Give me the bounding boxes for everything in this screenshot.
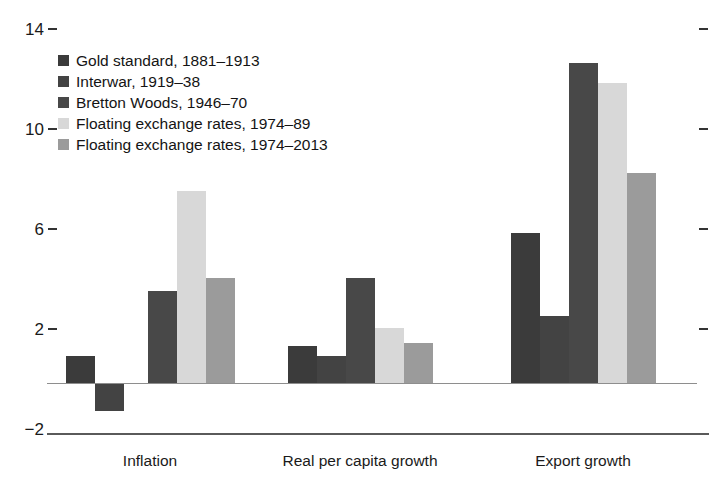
- bar-export-growth-floating-1974-89: [598, 83, 627, 383]
- legend-item-floating-1974-89: Floating exchange rates, 1974–89: [58, 113, 328, 134]
- bar-inflation-floating-1974-89: [177, 191, 206, 384]
- legend-label-floating-1974-2013: Floating exchange rates, 1974–2013: [76, 137, 328, 153]
- y-tick-label-10: 10: [0, 120, 44, 140]
- legend-swatch-icon-bretton-woods: [58, 97, 69, 108]
- x-axis-line: [47, 433, 709, 435]
- y-tick-dash-14: [48, 28, 57, 30]
- bar-export-growth-gold-standard: [511, 233, 540, 383]
- bar-export-growth-interwar: [540, 316, 569, 384]
- y-tick-label-neg2: −2: [0, 420, 44, 440]
- y-tick-dash-10: [48, 128, 57, 130]
- zero-baseline: [47, 383, 697, 384]
- legend-swatch-icon-gold-standard: [58, 55, 69, 66]
- y-tick-label-2: 2: [0, 320, 44, 340]
- y-tick-dash-2: [48, 328, 57, 330]
- legend-swatch-icon-floating-1974-89: [58, 118, 69, 129]
- bar-real-growth-interwar: [317, 356, 346, 384]
- legend-swatch-icon-floating-1974-2013: [58, 139, 69, 150]
- y-tick-dash-right-14: [699, 28, 708, 30]
- chart-legend: Gold standard, 1881–1913 Interwar, 1919–…: [58, 50, 328, 155]
- bar-real-growth-floating-1974-2013: [404, 343, 433, 383]
- bar-inflation-interwar: [95, 383, 124, 411]
- legend-item-interwar: Interwar, 1919–38: [58, 71, 328, 92]
- bar-export-growth-bretton-woods: [569, 63, 598, 383]
- y-tick-dash-right-10: [699, 128, 708, 130]
- legend-item-floating-1974-2013: Floating exchange rates, 1974–2013: [58, 134, 328, 155]
- y-tick-label-14: 14: [0, 20, 44, 40]
- x-category-label-inflation: Inflation: [123, 452, 177, 470]
- plot-area: 14 10 6 2 −2: [0, 0, 723, 492]
- bar-real-growth-gold-standard: [288, 346, 317, 384]
- legend-label-bretton-woods: Bretton Woods, 1946–70: [76, 95, 247, 111]
- x-category-label-real-per-capita-growth: Real per capita growth: [282, 452, 437, 470]
- legend-label-interwar: Interwar, 1919–38: [76, 74, 200, 90]
- x-category-label-export-growth: Export growth: [535, 452, 631, 470]
- bar-inflation-bretton-woods: [148, 291, 177, 384]
- bar-export-growth-floating-1974-2013: [627, 173, 656, 383]
- y-tick-label-6: 6: [0, 220, 44, 240]
- y-tick-dash-right-6: [699, 228, 708, 230]
- legend-label-floating-1974-89: Floating exchange rates, 1974–89: [76, 116, 310, 132]
- chart-container: 14 10 6 2 −2: [0, 0, 723, 492]
- legend-label-gold-standard: Gold standard, 1881–1913: [76, 53, 260, 69]
- legend-item-gold-standard: Gold standard, 1881–1913: [58, 50, 328, 71]
- legend-swatch-icon-interwar: [58, 76, 69, 87]
- bar-real-growth-bretton-woods: [346, 278, 375, 383]
- bar-inflation-gold-standard: [66, 356, 95, 384]
- legend-item-bretton-woods: Bretton Woods, 1946–70: [58, 92, 328, 113]
- bar-real-growth-floating-1974-89: [375, 328, 404, 383]
- y-tick-dash-6: [48, 228, 57, 230]
- bar-inflation-floating-1974-2013: [206, 278, 235, 383]
- y-tick-dash-right-2: [699, 328, 708, 330]
